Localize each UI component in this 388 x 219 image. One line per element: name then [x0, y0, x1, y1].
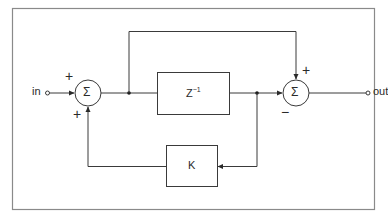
gain-block-label: K [188, 159, 195, 171]
summer-2-sign-left: − [281, 104, 289, 120]
summer-2-symbol: Σ [291, 85, 298, 99]
input-label: in [32, 85, 41, 97]
output-label: out [373, 85, 388, 97]
delay-block-label: Z−1 [186, 86, 201, 99]
summer-1-symbol: Σ [83, 85, 90, 99]
delay-label: Z [186, 87, 193, 99]
delay-exponent: −1 [193, 86, 201, 93]
summer-2-sign-top: + [302, 62, 310, 78]
input-terminal [46, 91, 50, 95]
summer-1-sign-bottom: + [73, 106, 81, 122]
summer-1-sign-left: + [65, 68, 73, 84]
output-terminal [366, 91, 370, 95]
